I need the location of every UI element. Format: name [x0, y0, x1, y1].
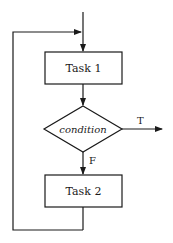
task2-label: Task 2	[66, 185, 102, 198]
true-edge-label: T	[137, 115, 144, 126]
flowchart: Task 1 condition T F Task 2	[0, 0, 173, 243]
task2-node: Task 2	[45, 175, 122, 207]
false-edge-label: F	[89, 155, 96, 166]
condition-node: condition	[44, 106, 122, 152]
task1-label: Task 1	[66, 62, 102, 75]
condition-label: condition	[59, 124, 106, 135]
task1-node: Task 1	[45, 52, 122, 84]
